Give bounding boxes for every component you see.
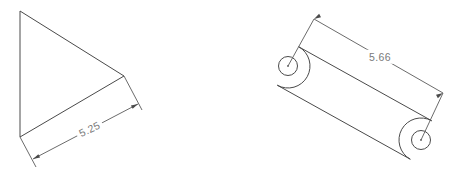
triangular-plate-view: 5.25 xyxy=(20,11,142,167)
link-arrow-head-left xyxy=(314,14,321,19)
slotted-link-view: 5.66 xyxy=(277,14,443,159)
link-extension-line-left xyxy=(288,19,314,66)
link-dimension-label: 5.66 xyxy=(369,51,391,63)
hole-center-distance-dimension: 5.66 xyxy=(288,14,443,140)
triangle-extension-line-right xyxy=(124,76,142,110)
triangle-arrow-head-left xyxy=(33,154,40,159)
cad-drawing-canvas: 5.25 5.66 xyxy=(0,0,457,181)
triangle-length-dimension: 5.25 xyxy=(20,76,142,167)
triangle-outline xyxy=(20,11,124,137)
triangle-arrow-head-right xyxy=(131,104,138,109)
slotted-link-outline xyxy=(277,47,431,159)
triangle-extension-line-left xyxy=(20,137,36,167)
drawing-svg-root: 5.25 5.66 xyxy=(0,0,457,181)
